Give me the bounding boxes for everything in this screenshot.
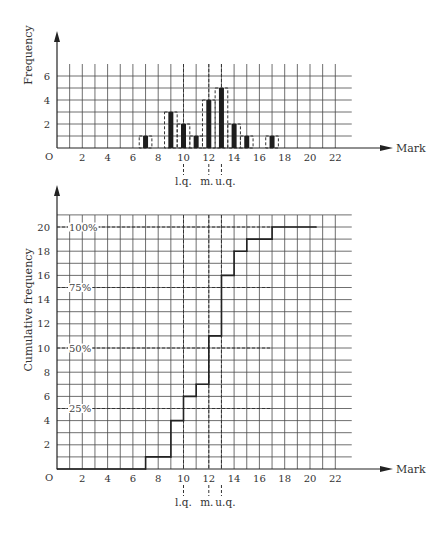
upper-quartile-label: u.q.	[215, 175, 235, 187]
x-axis-title: Mark	[396, 142, 426, 155]
x-tick-label: 18	[278, 473, 291, 484]
step-vertex	[183, 420, 184, 421]
step-vertex	[271, 226, 272, 227]
y-tick-label: 6	[44, 71, 50, 82]
frequency-bar	[219, 88, 224, 148]
y-tick-label: 10	[37, 343, 50, 354]
step-vertex	[221, 335, 222, 336]
frequency-bar	[168, 112, 173, 148]
x-tick-label: 2	[79, 473, 85, 484]
step-vertex	[56, 468, 57, 469]
step-vertex	[221, 275, 222, 276]
origin-label: O	[45, 472, 53, 483]
y-tick-label: 4	[44, 415, 50, 426]
x-tick-label: 12	[202, 473, 215, 484]
x-tick-label: 16	[253, 152, 266, 163]
percent-label: 50%	[69, 343, 91, 354]
percent-label: 75%	[69, 282, 91, 293]
frequency-bar	[206, 100, 211, 148]
x-axis-arrow-icon	[380, 145, 393, 151]
step-vertex	[316, 226, 317, 227]
y-axis-title: Frequency	[22, 24, 35, 84]
median-label: m.	[200, 496, 213, 508]
x-tick-label: 8	[155, 152, 161, 163]
frequency-bar	[181, 124, 186, 148]
x-tick-label: 4	[104, 473, 110, 484]
y-tick-label: 20	[37, 222, 50, 233]
cumulative-frequency-step-chart: O2468101214161820222468101214161820MarkC…	[22, 185, 426, 508]
y-axis-arrow-icon	[54, 185, 60, 196]
x-tick-label: 10	[177, 152, 190, 163]
median-label: m.	[200, 175, 213, 187]
y-tick-label: 2	[44, 119, 50, 130]
percent-label: 100%	[69, 222, 98, 233]
step-vertex	[145, 456, 146, 457]
frequency-bar	[270, 136, 275, 148]
x-tick-label: 14	[228, 152, 241, 163]
step-vertex	[271, 239, 272, 240]
frequency-histogram: O246810121416182022246MarkFrequencyl.q.m…	[22, 24, 426, 187]
x-tick-label: 12	[202, 152, 215, 163]
x-tick-label: 14	[228, 473, 241, 484]
x-axis-title: Mark	[396, 463, 426, 476]
y-axis-title: Cumulative frequency	[22, 248, 35, 372]
step-vertex	[246, 239, 247, 240]
lower-quartile-label: l.q.	[175, 175, 192, 187]
step-vertex	[170, 420, 171, 421]
origin-label: O	[45, 151, 53, 162]
x-tick-label: 4	[104, 152, 110, 163]
x-tick-label: 6	[130, 152, 136, 163]
chart-canvas: O246810121416182022246MarkFrequencyl.q.m…	[0, 0, 438, 536]
y-tick-label: 4	[44, 95, 50, 106]
x-tick-label: 10	[177, 473, 190, 484]
y-axis-arrow-icon	[54, 31, 60, 42]
y-tick-label: 18	[37, 246, 50, 257]
x-tick-label: 8	[155, 473, 161, 484]
x-tick-label: 22	[329, 473, 342, 484]
frequency-bar	[244, 136, 249, 148]
y-tick-label: 6	[44, 391, 50, 402]
frequency-bar	[143, 136, 148, 148]
x-tick-label: 20	[304, 152, 317, 163]
y-tick-label: 2	[44, 439, 50, 450]
step-vertex	[196, 384, 197, 385]
percent-label: 25%	[69, 403, 91, 414]
y-tick-label: 12	[37, 318, 50, 329]
lower-quartile-label: l.q.	[175, 496, 192, 508]
x-tick-label: 20	[304, 473, 317, 484]
x-tick-label: 18	[278, 152, 291, 163]
y-tick-label: 14	[37, 294, 50, 305]
step-vertex	[196, 396, 197, 397]
frequency-bar	[194, 136, 199, 148]
step-vertex	[145, 468, 146, 469]
step-vertex	[208, 384, 209, 385]
x-tick-label: 22	[329, 152, 342, 163]
step-vertex	[208, 335, 209, 336]
x-tick-label: 6	[130, 473, 136, 484]
step-vertex	[246, 251, 247, 252]
upper-quartile-label: u.q.	[215, 496, 235, 508]
x-tick-label: 16	[253, 473, 266, 484]
x-axis-arrow-icon	[380, 466, 393, 472]
frequency-bar	[232, 124, 237, 148]
x-tick-label: 2	[79, 152, 85, 163]
step-vertex	[234, 251, 235, 252]
step-vertex	[170, 456, 171, 457]
step-vertex	[234, 275, 235, 276]
step-vertex	[183, 396, 184, 397]
y-tick-label: 8	[44, 367, 50, 378]
y-tick-label: 16	[37, 270, 50, 281]
